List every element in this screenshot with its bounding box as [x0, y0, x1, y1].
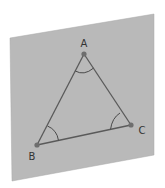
label-a: A: [81, 39, 88, 49]
vertex-a: [81, 51, 86, 56]
vertex-c: [128, 122, 133, 127]
vertex-b: [34, 142, 39, 147]
triangle-diagram: A B C: [0, 0, 165, 188]
diagram-canvas: [0, 0, 165, 188]
label-b: B: [29, 152, 36, 162]
label-c: C: [139, 126, 146, 136]
